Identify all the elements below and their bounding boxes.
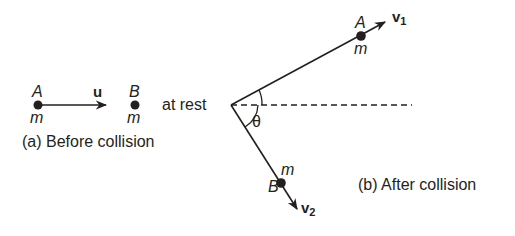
diagram-canvas: A m u B m at rest (a) Before collision θ… xyxy=(0,0,515,236)
collision-diagram: A m u B m at rest (a) Before collision θ… xyxy=(0,0,515,236)
angle-arc-upper xyxy=(259,90,262,105)
ball-a-after-mass: m xyxy=(354,40,367,57)
ball-a-mass: m xyxy=(30,109,43,126)
caption-before: (a) Before collision xyxy=(22,133,155,150)
angle-theta-label: θ xyxy=(252,113,261,130)
velocity-v1-label: v1 xyxy=(392,8,406,27)
ball-b-after-mass: m xyxy=(281,161,294,178)
ball-b-after-label: B xyxy=(268,178,279,195)
velocity-v2-arrow xyxy=(231,105,297,209)
velocity-u-label: u xyxy=(93,83,102,100)
ball-a-after-label: A xyxy=(354,14,366,31)
ball-a-label: A xyxy=(31,83,43,100)
panel-after-collision: θ A m v1 B m v2 (b) After collision xyxy=(231,8,476,218)
caption-after: (b) After collision xyxy=(358,176,476,193)
ball-b-label: B xyxy=(129,83,140,100)
at-rest-label: at rest xyxy=(162,96,207,113)
velocity-v2-label: v2 xyxy=(301,199,315,218)
ball-b-mass: m xyxy=(127,109,140,126)
panel-before-collision: A m u B m at rest (a) Before collision xyxy=(22,83,207,150)
